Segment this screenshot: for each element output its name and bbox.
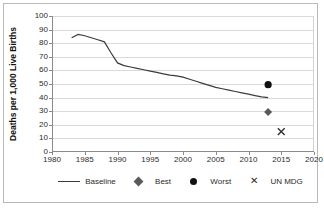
x-tick-label: 2000	[174, 156, 192, 164]
x-tick-label: 1985	[76, 156, 94, 164]
cross-key-icon: ✕	[243, 176, 265, 186]
x-tick-mark	[52, 152, 53, 155]
x-tick-label: 1980	[43, 156, 61, 164]
y-tick-label: 20	[39, 121, 48, 129]
x-tick-label: 2005	[207, 156, 225, 164]
chart-frame: Deaths per 1,000 Live Births 01020304050…	[3, 3, 318, 203]
plot-area: 0102030405060708090100 19801985199019952…	[52, 16, 314, 152]
y-tick-label: 40	[39, 94, 48, 102]
y-axis-title: Deaths per 1,000 Live Births	[6, 16, 20, 152]
x-tick-mark	[118, 152, 119, 155]
legend-label: Baseline	[85, 177, 116, 186]
x-tick-mark	[85, 152, 86, 155]
y-tick-label: 50	[39, 80, 48, 88]
legend-label: UN MDG	[270, 177, 302, 186]
x-tick-label: 1995	[141, 156, 159, 164]
legend-item-un-mdg[interactable]: ✕UN MDG	[243, 176, 302, 186]
legend-label: Best	[155, 177, 171, 186]
y-tick-label: 100	[35, 12, 48, 20]
chart-legend: BaselineBestWorst✕UN MDG	[52, 174, 309, 188]
diamond-key-icon	[128, 176, 150, 186]
data-series-layer	[52, 16, 314, 152]
legend-item-best[interactable]: Best	[128, 176, 171, 186]
x-tick-mark	[281, 152, 282, 155]
x-tick-label: 2020	[305, 156, 323, 164]
y-tick-label: 60	[39, 66, 48, 74]
x-tick-mark	[249, 152, 250, 155]
x-tick-mark	[216, 152, 217, 155]
x-tick-mark	[150, 152, 151, 155]
x-tick-label: 2010	[240, 156, 258, 164]
x-tick-label: 1990	[109, 156, 127, 164]
y-tick-label: 90	[39, 26, 48, 34]
data-point-worst	[265, 81, 272, 88]
legend-label: Worst	[210, 177, 231, 186]
y-tick-label: 80	[39, 39, 48, 47]
legend-item-worst[interactable]: Worst	[183, 176, 231, 186]
y-tick-label: 30	[39, 107, 48, 115]
data-point-un-mdg	[278, 128, 285, 135]
y-tick-label: 10	[39, 134, 48, 142]
line-key-icon	[58, 176, 80, 186]
y-tick-label: 70	[39, 53, 48, 61]
x-tick-mark	[314, 152, 315, 155]
series-line-baseline	[72, 34, 269, 97]
legend-item-baseline[interactable]: Baseline	[58, 176, 116, 186]
x-tick-mark	[183, 152, 184, 155]
circle-key-icon	[183, 176, 205, 186]
x-tick-label: 2015	[272, 156, 290, 164]
data-point-best	[264, 108, 272, 116]
